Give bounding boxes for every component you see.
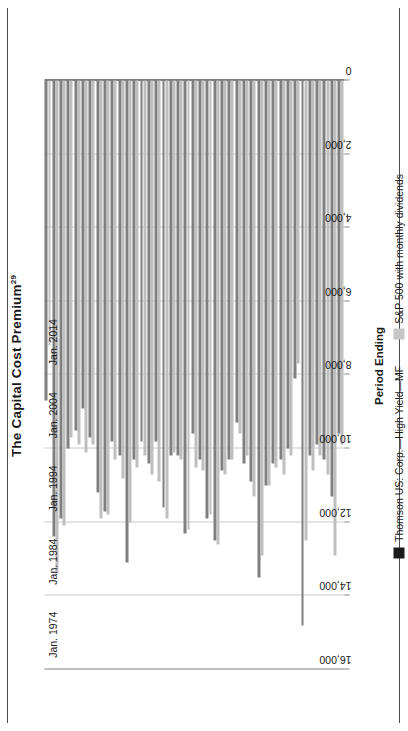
bar-1992-s1 (179, 80, 182, 459)
bar-1983-s1 (113, 80, 116, 459)
bar-1996-s1 (209, 80, 212, 514)
bar-1983-s0 (110, 80, 113, 441)
bar-1977-s1 (69, 80, 72, 437)
tick-label-0: 0 (345, 64, 351, 76)
bar-2008-s0 (293, 80, 296, 378)
bar-1988-s1 (150, 80, 153, 474)
bar-2009-s0 (301, 80, 304, 625)
axis-title-period-ending: Period Ending (372, 0, 384, 731)
bar-1989-s1 (157, 80, 160, 481)
bar-1992-s0 (176, 80, 179, 455)
bar-2004-s0 (264, 80, 267, 485)
bar-2014-s0 (337, 80, 340, 433)
bar-1978-s0 (74, 80, 77, 430)
bars-group (44, 80, 344, 669)
bar-1994-s0 (191, 80, 194, 433)
bar-2014-s1 (340, 80, 343, 444)
bar-1977-s0 (66, 80, 69, 448)
bar-1976-s1 (62, 80, 65, 525)
bar-1997-s1 (216, 80, 219, 544)
bar-2009-s1 (304, 80, 307, 540)
bar-1988-s0 (147, 80, 150, 463)
chart-rotation-wrapper: The Capital Cost Premium29 16,00014,0001… (0, 0, 408, 731)
chart-figure: The Capital Cost Premium29 16,00014,0001… (0, 0, 408, 731)
bar-2004-s1 (267, 80, 270, 485)
bar-1980-s0 (88, 80, 91, 437)
bar-1991-s1 (172, 80, 175, 452)
bar-1999-s1 (230, 80, 233, 459)
bar-1991-s0 (169, 80, 172, 455)
bar-1979-s1 (84, 80, 87, 452)
chart-title-text: The Capital Cost Premium (9, 284, 24, 457)
bar-1999-s0 (227, 80, 230, 459)
category-label-1984: Jan. 1984 (46, 538, 58, 584)
legend-label-high-yield: Thomson US: Corp.—High Yield—MF (392, 365, 404, 541)
bar-2006-s1 (282, 80, 285, 474)
plot-area (44, 80, 344, 669)
bar-1996-s0 (205, 80, 208, 518)
bar-2003-s1 (260, 80, 263, 555)
bar-2001-s1 (245, 80, 248, 455)
bar-1994-s1 (194, 80, 197, 467)
bar-1981-s0 (96, 80, 99, 492)
bar-2010-s0 (308, 80, 311, 455)
bar-1978-s1 (77, 80, 80, 444)
bar-2000-s1 (238, 80, 241, 433)
bar-2002-s1 (252, 80, 255, 496)
category-label-2004: Jan. 2004 (46, 392, 58, 438)
bar-2012-s0 (322, 80, 325, 459)
bar-2006-s0 (279, 80, 282, 459)
bar-1990-s0 (162, 80, 165, 507)
bar-2003-s0 (257, 80, 260, 577)
bar-1995-s0 (198, 80, 201, 459)
bar-2007-s1 (289, 80, 292, 455)
bar-2002-s0 (249, 80, 252, 481)
chart-legend: Thomson US: Corp.—High Yield—MFS&P 500 w… (392, 0, 404, 731)
bar-1986-s1 (135, 80, 138, 467)
category-label-1994: Jan. 1994 (46, 465, 58, 511)
bar-2005-s0 (271, 80, 274, 463)
bar-2007-s0 (286, 80, 289, 448)
bar-1980-s1 (91, 80, 94, 444)
bar-1976-s0 (59, 80, 62, 518)
page-title: The Capital Cost Premium29 (8, 0, 24, 731)
bar-2011-s1 (318, 80, 321, 455)
bar-1984-s1 (121, 80, 124, 478)
bar-1998-s1 (223, 80, 226, 474)
bar-1998-s0 (220, 80, 223, 470)
bar-2008-s1 (296, 80, 299, 363)
bar-1985-s0 (125, 80, 128, 562)
bar-2005-s1 (274, 80, 277, 467)
bar-2000-s0 (235, 80, 238, 422)
page-root: The Capital Cost Premium29 16,00014,0001… (0, 0, 408, 731)
legend-label-sp500: S&P 500 with monthly dividends (392, 173, 404, 323)
legend-item-high-yield[interactable]: Thomson US: Corp.—High Yield—MF (392, 365, 404, 557)
bar-1974-s1 (48, 80, 51, 345)
bar-2013-s1 (333, 80, 336, 555)
bar-1989-s0 (154, 80, 157, 441)
bar-1993-s1 (187, 80, 190, 529)
bar-1990-s1 (165, 80, 168, 518)
bar-1986-s0 (132, 80, 135, 459)
bar-1982-s1 (106, 80, 109, 514)
legend-swatch-icon-sp500 (393, 328, 404, 339)
bar-1979-s0 (81, 80, 84, 408)
bar-2001-s0 (242, 80, 245, 463)
bar-1981-s1 (99, 80, 102, 518)
category-label-1974: Jan. 1974 (46, 611, 58, 657)
bar-2011-s0 (315, 80, 318, 444)
bar-1995-s1 (201, 80, 204, 470)
legend-item-sp500[interactable]: S&P 500 with monthly dividends (392, 173, 404, 339)
bar-1984-s0 (118, 80, 121, 455)
bar-2010-s1 (311, 80, 314, 470)
bar-1987-s0 (140, 80, 143, 441)
category-label-2014: Jan. 2014 (46, 319, 58, 365)
bar-1993-s0 (183, 80, 186, 533)
chart-title-footnote: 29 (8, 274, 17, 283)
bar-1982-s0 (103, 80, 106, 511)
legend-swatch-icon-high-yield (393, 547, 404, 558)
bar-1987-s1 (143, 80, 146, 455)
bar-1997-s0 (213, 80, 216, 540)
bar-1985-s1 (128, 80, 131, 522)
